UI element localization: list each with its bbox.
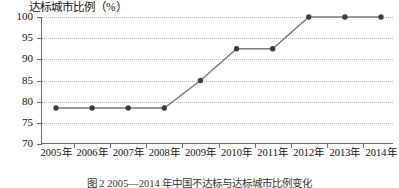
data-point-marker bbox=[126, 105, 131, 110]
y-tick-label: 70 bbox=[3, 138, 33, 149]
figure-caption: 图 2 2005—2014 年中国不达标与达标城市比例变化 bbox=[0, 178, 399, 188]
x-tick-label: 2011年 bbox=[257, 147, 288, 159]
data-point-marker bbox=[198, 78, 203, 83]
data-point-marker bbox=[162, 105, 167, 110]
series-line bbox=[56, 17, 381, 108]
y-tick-label: 75 bbox=[3, 117, 33, 128]
y-tick-label: 95 bbox=[3, 32, 33, 43]
y-tick-label: 100 bbox=[3, 11, 33, 22]
x-tick-label: 2013年 bbox=[329, 147, 360, 159]
data-point-marker bbox=[89, 105, 94, 110]
y-tick bbox=[37, 144, 42, 145]
y-tick-label: 85 bbox=[3, 75, 33, 86]
plot-area: 707580859095100 2005年2006年2007年2008年2009… bbox=[41, 17, 393, 144]
data-point-marker bbox=[270, 46, 275, 51]
data-point-marker bbox=[342, 14, 347, 19]
data-point-marker bbox=[53, 105, 58, 110]
x-tick-label: 2005年 bbox=[41, 147, 72, 159]
x-tick-label: 2010年 bbox=[221, 147, 252, 159]
y-tick-label: 80 bbox=[3, 96, 33, 107]
x-tick-label: 2014年 bbox=[366, 147, 397, 159]
data-point-marker bbox=[234, 46, 239, 51]
data-point-marker bbox=[378, 14, 383, 19]
x-tick-label: 2008年 bbox=[149, 147, 180, 159]
x-tick-label: 2007年 bbox=[113, 147, 144, 159]
x-tick-label: 2012年 bbox=[293, 147, 324, 159]
x-tick-label: 2006年 bbox=[77, 147, 108, 159]
y-axis-title: 达标城市比例（%） bbox=[29, 0, 127, 14]
x-tick-label: 2009年 bbox=[185, 147, 216, 159]
data-series bbox=[41, 17, 393, 144]
y-tick-label: 90 bbox=[3, 53, 33, 64]
data-point-marker bbox=[306, 14, 311, 19]
figure-container: 达标城市比例（%） 707580859095100 2005年2006年2007… bbox=[0, 0, 399, 188]
